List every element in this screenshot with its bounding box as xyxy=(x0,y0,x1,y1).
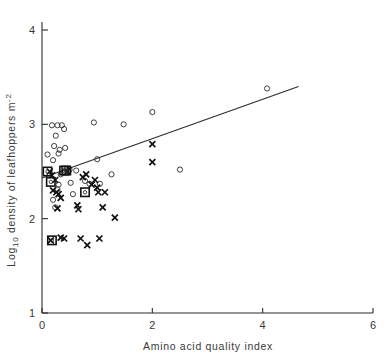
data-point-open-circle xyxy=(177,167,182,172)
regression-line xyxy=(42,87,299,179)
axis-ticks: 02461234 xyxy=(29,24,376,331)
data-point-open-circle xyxy=(49,123,54,128)
data-point-cross xyxy=(102,189,108,195)
regression-line-group xyxy=(42,87,299,179)
y-tick-label-3: 3 xyxy=(29,118,35,130)
x-tick-label-2: 2 xyxy=(149,319,155,331)
axes xyxy=(42,22,373,313)
data-point-cross xyxy=(112,215,118,221)
y-tick-label-4: 4 xyxy=(29,24,35,36)
data-point-cross xyxy=(78,235,84,241)
data-point-cross xyxy=(100,204,106,210)
data-point-cross xyxy=(48,237,54,243)
data-point-cross xyxy=(95,189,101,195)
data-point-open-circle xyxy=(50,197,55,202)
data-point-open-circle xyxy=(150,109,155,114)
y-tick-label-2: 2 xyxy=(29,213,35,225)
x-axis-title: Amino acid quality index xyxy=(143,340,273,352)
data-point-open-circle xyxy=(68,180,73,185)
scatter-plot-figure: Log10 density of leafhoppers m-2 Amino a… xyxy=(0,0,391,356)
data-markers xyxy=(43,86,269,248)
y-tick-label-1: 1 xyxy=(29,307,35,319)
data-point-open-circle xyxy=(63,145,68,150)
data-point-cross xyxy=(149,159,155,165)
y-axis-title: Log10 density of leafhoppers m-2 xyxy=(4,93,20,266)
data-point-open-circle xyxy=(74,168,79,173)
data-point-open-circle xyxy=(264,86,269,91)
data-point-open-circle xyxy=(109,172,114,177)
x-tick-label-6: 6 xyxy=(370,319,376,331)
data-point-open-circle xyxy=(52,143,57,148)
plot-canvas: Log10 density of leafhoppers m-2 Amino a… xyxy=(0,0,391,356)
data-point-open-circle xyxy=(121,122,126,127)
data-point-open-circle xyxy=(50,158,55,163)
data-point-open-circle xyxy=(91,120,96,125)
x-tick-label-4: 4 xyxy=(260,319,266,331)
x-tick-label-0: 0 xyxy=(39,319,45,331)
data-point-cross xyxy=(96,235,102,241)
data-point-boxed xyxy=(81,188,89,196)
data-point-cross xyxy=(149,141,155,147)
data-point-open-circle xyxy=(45,152,50,157)
data-point-open-circle xyxy=(53,133,58,138)
data-point-open-circle xyxy=(70,192,75,197)
data-point-cross xyxy=(83,171,89,177)
data-point-cross xyxy=(84,242,90,248)
